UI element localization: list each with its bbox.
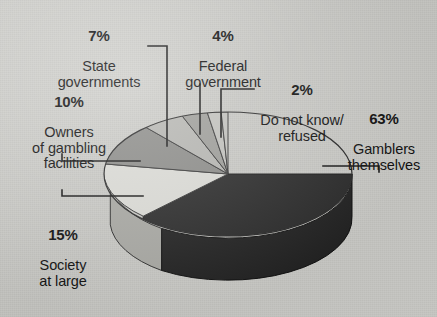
label-gamblers-name: Gamblers themselves: [330, 142, 437, 173]
label-state-percent: 7%: [36, 28, 162, 44]
label-society-name: Society at large: [8, 258, 118, 289]
label-gamblers-themselves: 63% Gamblers themselves: [330, 95, 437, 189]
chart-canvas: 7% State governments 4% Federal governme…: [0, 0, 437, 317]
label-society-percent: 15%: [8, 227, 118, 243]
label-owners-of-gambling-facilities: 10% Owners of gambling facilities: [6, 78, 132, 187]
label-gamblers-percent: 63%: [330, 111, 437, 127]
label-federal-percent: 4%: [160, 28, 286, 44]
label-owners-percent: 10%: [6, 94, 132, 110]
label-society-at-large: 15% Society at large: [8, 211, 118, 305]
label-owners-name: Owners of gambling facilities: [6, 125, 132, 172]
